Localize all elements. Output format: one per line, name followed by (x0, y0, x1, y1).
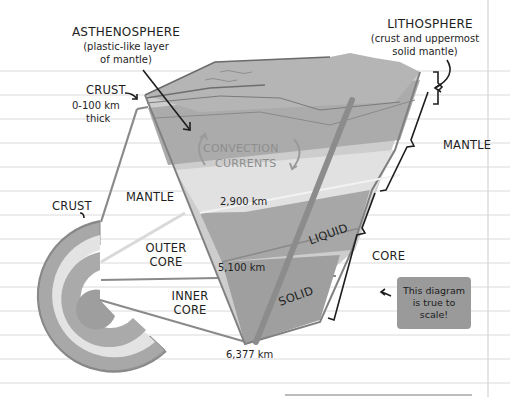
asthenosphere-desc-2: of mantle) (70, 54, 182, 65)
scale-note-line-3: scale! (420, 309, 448, 321)
cross-section-inner-core (76, 290, 115, 330)
depth-2900-label: 2,900 km (220, 196, 267, 207)
crust-thickness-label: 0-100 km (72, 100, 120, 111)
convection-label-1: CONVECTION (203, 143, 279, 155)
inner-core-label-1: INNER (162, 290, 218, 303)
asthenosphere-title: ASTHENOSPHERE (70, 26, 182, 39)
crust-thickness-unit: thick (86, 113, 110, 124)
outer-core-label-1: OUTER (138, 242, 194, 255)
scale-note-line-2: is true to (413, 297, 456, 309)
outer-core-label-2: CORE (138, 256, 194, 269)
mantle-right-label: MANTLE (443, 139, 491, 152)
inner-core-label-2: CORE (162, 304, 218, 317)
lithosphere-desc-1: (crust and uppermost (360, 33, 490, 44)
crust-top-label: CRUST (86, 84, 126, 97)
core-right-label: CORE (372, 250, 405, 263)
scale-note: This diagram is true to scale! (397, 277, 471, 329)
lithosphere-desc-2: solid mantle) (370, 46, 480, 57)
crust-side-label: CRUST (52, 200, 92, 213)
convection-label-2: CURRENTS (215, 158, 277, 170)
lithosphere-title: LITHOSPHERE (375, 18, 485, 31)
depth-6377-label: 6,377 km (226, 349, 273, 360)
asthenosphere-desc-1: (plastic-like layer (70, 41, 182, 52)
crust-top-arrow (125, 93, 137, 99)
depth-5100-label: 5,100 km (218, 262, 265, 273)
mantle-left-label: MANTLE (126, 191, 174, 204)
scale-note-line-1: This diagram (403, 285, 465, 297)
